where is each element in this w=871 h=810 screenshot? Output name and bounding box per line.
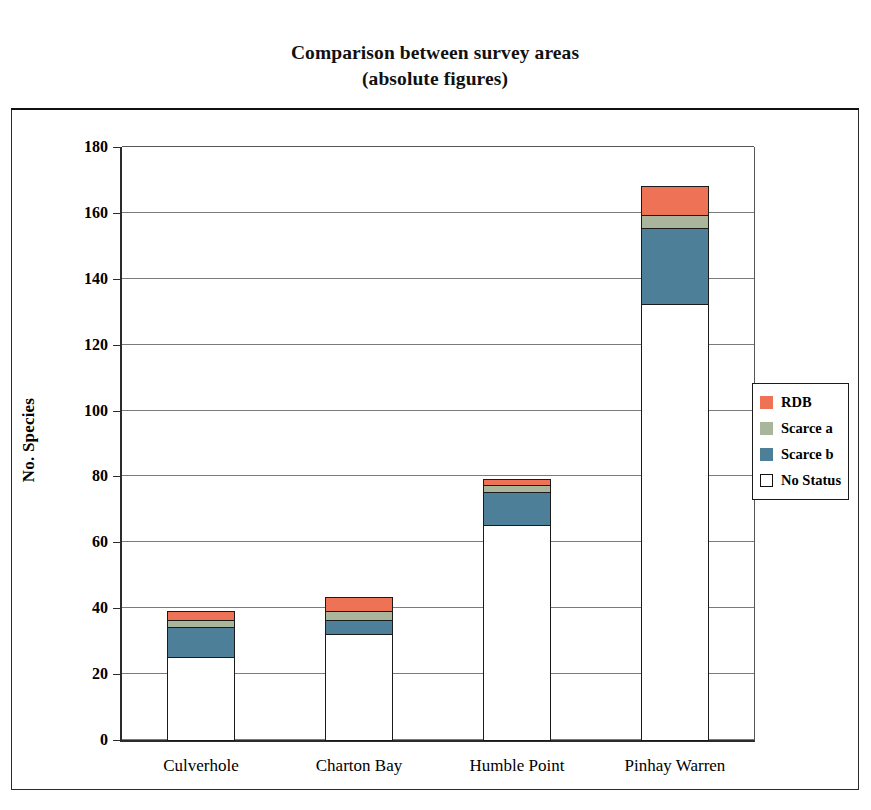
legend-item-label: Scarce b (781, 446, 834, 463)
bar-segment-scarce-a (642, 216, 707, 229)
bar-segment-scarce-b (484, 493, 549, 526)
bar-segment-rdb (484, 480, 549, 487)
legend-item: Scarce b (760, 441, 841, 467)
x-tick-label: Charton Bay (316, 756, 402, 776)
page-title: Comparison between survey areas (absolut… (291, 40, 579, 91)
y-tick-label: 0 (100, 731, 108, 749)
bars-layer: CulverholeCharton BayHumble PointPinhay … (122, 147, 754, 740)
y-axis-title: No. Species (19, 398, 39, 482)
bar-culverhole: Culverhole (168, 612, 233, 740)
bar-segment-rdb (642, 187, 707, 217)
bar-segment-no-status (484, 526, 549, 740)
legend-item-label: No Status (781, 472, 841, 489)
x-tick-label: Pinhay Warren (625, 756, 726, 776)
y-tick-label: 160 (84, 204, 108, 222)
y-tick-mark (113, 674, 122, 675)
legend-item: RDB (760, 389, 841, 415)
legend-item: No Status (760, 467, 841, 493)
chart-figure: Comparison between survey areas (absolut… (0, 0, 871, 810)
y-tick-mark (113, 542, 122, 543)
chart-legend: RDBScarce aScarce bNo Status (752, 383, 849, 500)
y-tick-mark (113, 345, 122, 346)
legend-swatch-icon (760, 422, 773, 435)
bar-segment-rdb (326, 598, 391, 611)
bar-segment-scarce-b (168, 628, 233, 658)
bar-segment-scarce-b (642, 229, 707, 305)
y-tick-mark (113, 279, 122, 280)
bar-segment-scarce-a (168, 621, 233, 628)
bar-segment-no-status (642, 305, 707, 740)
bar-charton-bay: Charton Bay (326, 598, 391, 740)
bar-pinhay-warren: Pinhay Warren (642, 187, 707, 740)
legend-swatch-icon (760, 396, 773, 409)
legend-item-label: Scarce a (781, 420, 833, 437)
chart-title-line-1: Comparison between survey areas (291, 40, 579, 66)
bar-segment-scarce-b (326, 621, 391, 634)
y-tick-label: 140 (84, 270, 108, 288)
legend-item-label: RDB (781, 394, 812, 411)
bar-segment-scarce-a (326, 612, 391, 622)
bar-segment-no-status (168, 658, 233, 740)
legend-item: Scarce a (760, 415, 841, 441)
bar-segment-scarce-a (484, 486, 549, 493)
y-tick-mark (113, 147, 122, 148)
legend-swatch-icon (760, 474, 773, 487)
legend-rows: RDBScarce aScarce bNo Status (760, 389, 841, 493)
y-tick-label: 60 (92, 533, 108, 551)
y-tick-label: 20 (92, 665, 108, 683)
y-tick-label: 120 (84, 336, 108, 354)
x-tick-label: Culverhole (163, 756, 239, 776)
chart-title-line-2: (absolute figures) (291, 66, 579, 92)
chart-title-band: Comparison between survey areas (absolut… (11, 24, 859, 110)
bar-segment-no-status (326, 635, 391, 740)
y-tick-mark (113, 608, 122, 609)
y-tick-mark (113, 740, 122, 741)
y-tick-label: 180 (84, 138, 108, 156)
y-tick-label: 80 (92, 467, 108, 485)
plot-region: No. Species 020406080100120140160180 Cul… (11, 110, 859, 790)
x-tick-label: Humble Point (470, 756, 565, 776)
y-tick-mark (113, 213, 122, 214)
bar-humble-point: Humble Point (484, 480, 549, 740)
bar-segment-rdb (168, 612, 233, 622)
y-tick-label: 100 (84, 402, 108, 420)
legend-swatch-icon (760, 448, 773, 461)
plot-axes: 020406080100120140160180 CulverholeChart… (120, 147, 755, 742)
y-tick-label: 40 (92, 599, 108, 617)
y-tick-mark (113, 411, 122, 412)
y-tick-mark (113, 476, 122, 477)
